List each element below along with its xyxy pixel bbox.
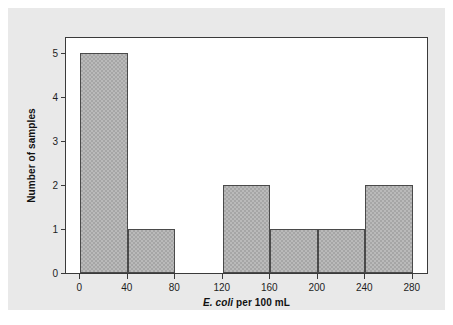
y-axis-title: Number of samples xyxy=(22,37,40,274)
x-tick-label: 40 xyxy=(121,282,132,293)
plot-surface: 012345 xyxy=(66,38,427,273)
x-tick-label: 280 xyxy=(403,282,420,293)
x-tick-label: 120 xyxy=(213,282,230,293)
y-tick-label: 5 xyxy=(52,48,58,59)
x-tick-label: 160 xyxy=(261,282,278,293)
plot-area: 012345 xyxy=(65,37,428,274)
y-tick-label: 1 xyxy=(52,224,58,235)
y-tick-mark xyxy=(61,53,66,54)
x-tick-mark xyxy=(127,274,128,279)
x-axis-title-species: E. coli xyxy=(203,297,233,308)
histogram-bar xyxy=(80,53,128,273)
histogram-bar xyxy=(128,229,176,273)
y-tick-mark xyxy=(61,229,66,230)
x-tick-mark xyxy=(412,274,413,279)
x-tick-mark xyxy=(79,274,80,279)
y-tick-mark xyxy=(61,141,66,142)
figure-panel: Number of samples 012345 040801201602002… xyxy=(8,8,445,310)
y-tick-label: 2 xyxy=(52,180,58,191)
histogram-bar xyxy=(270,229,318,273)
y-tick-label: 3 xyxy=(52,136,58,147)
x-tick-mark xyxy=(174,274,175,279)
x-axis-title-rest: per 100 mL xyxy=(233,297,290,308)
x-tick-label: 200 xyxy=(308,282,325,293)
x-tick-label: 240 xyxy=(356,282,373,293)
histogram-bar xyxy=(318,229,366,273)
x-tick-label: 0 xyxy=(76,282,82,293)
x-axis-title: E. coli per 100 mL xyxy=(65,297,428,308)
x-tick-mark xyxy=(364,274,365,279)
y-tick-label: 0 xyxy=(52,268,58,279)
y-tick-mark xyxy=(61,97,66,98)
y-tick-mark xyxy=(61,185,66,186)
x-axis-ticks: 04080120160200240280 xyxy=(65,274,428,298)
x-tick-mark xyxy=(317,274,318,279)
histogram-bar xyxy=(365,185,413,273)
x-tick-mark xyxy=(269,274,270,279)
y-axis-title-text: Number of samples xyxy=(26,108,37,203)
x-tick-label: 80 xyxy=(169,282,180,293)
histogram-bar xyxy=(223,185,271,273)
y-tick-label: 4 xyxy=(52,92,58,103)
histogram-figure: Number of samples 012345 040801201602002… xyxy=(0,0,453,325)
x-tick-mark xyxy=(222,274,223,279)
